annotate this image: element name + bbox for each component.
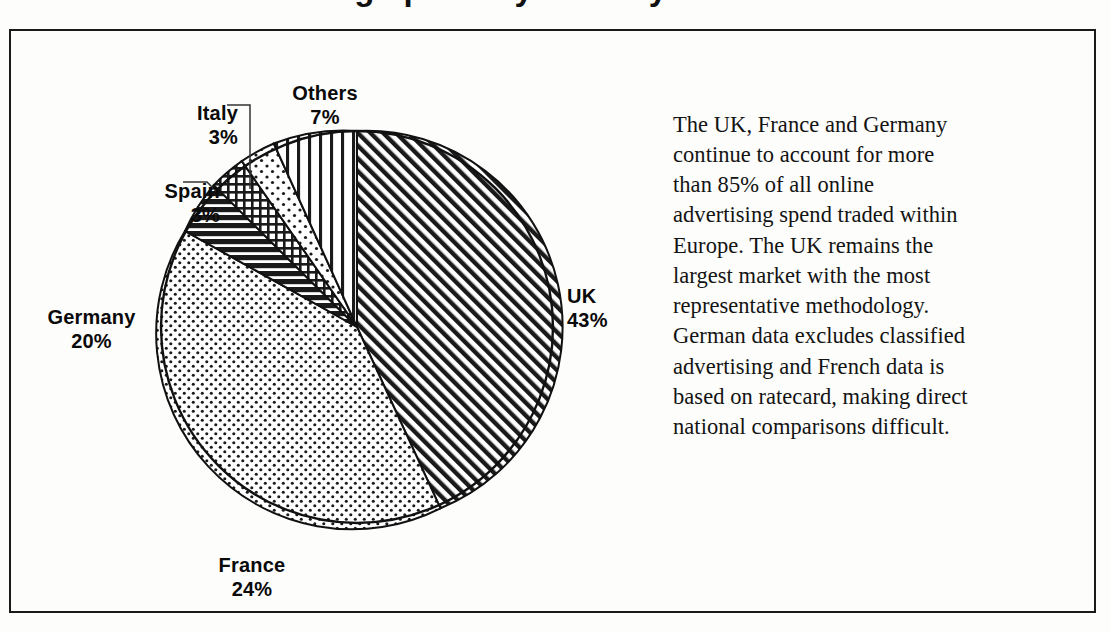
pie-label-germany: Germany 20% [29,305,154,354]
pie-label-france: France 24% [188,553,316,602]
pie-label-italy-name: Italy [130,101,238,125]
pie-label-others: Others 7% [273,81,377,130]
pie-label-france-value: 24% [188,577,316,601]
explanatory-note: The UK, France and Germany continue to a… [673,110,973,443]
pie-label-uk-value: 43% [567,308,639,332]
pie-label-germany-name: Germany [29,305,154,329]
pie-label-france-name: France [188,553,316,577]
pie-label-others-value: 7% [273,105,377,129]
title-text: Online advertising spend by country [78,0,668,8]
pie-chart: Others 7% Italy 3% Spain 3% Germany 20% … [11,31,651,615]
pie-label-uk: UK 43% [567,284,639,333]
pie-label-spain-name: Spain [112,179,220,203]
pie-label-spain: Spain 3% [112,179,220,228]
pie-label-uk-name: UK [567,284,639,308]
pie-label-others-name: Others [273,81,377,105]
figure-frame: Others 7% Italy 3% Spain 3% Germany 20% … [9,29,1096,613]
pie-label-germany-value: 20% [29,329,154,353]
figure-page: Online advertising spend by country [0,0,1111,632]
pie-label-spain-value: 3% [112,203,220,227]
pie-label-italy: Italy 3% [130,101,238,150]
pie-label-italy-value: 3% [130,125,238,149]
cropped-title-fragment: Online advertising spend by country [0,0,1111,17]
